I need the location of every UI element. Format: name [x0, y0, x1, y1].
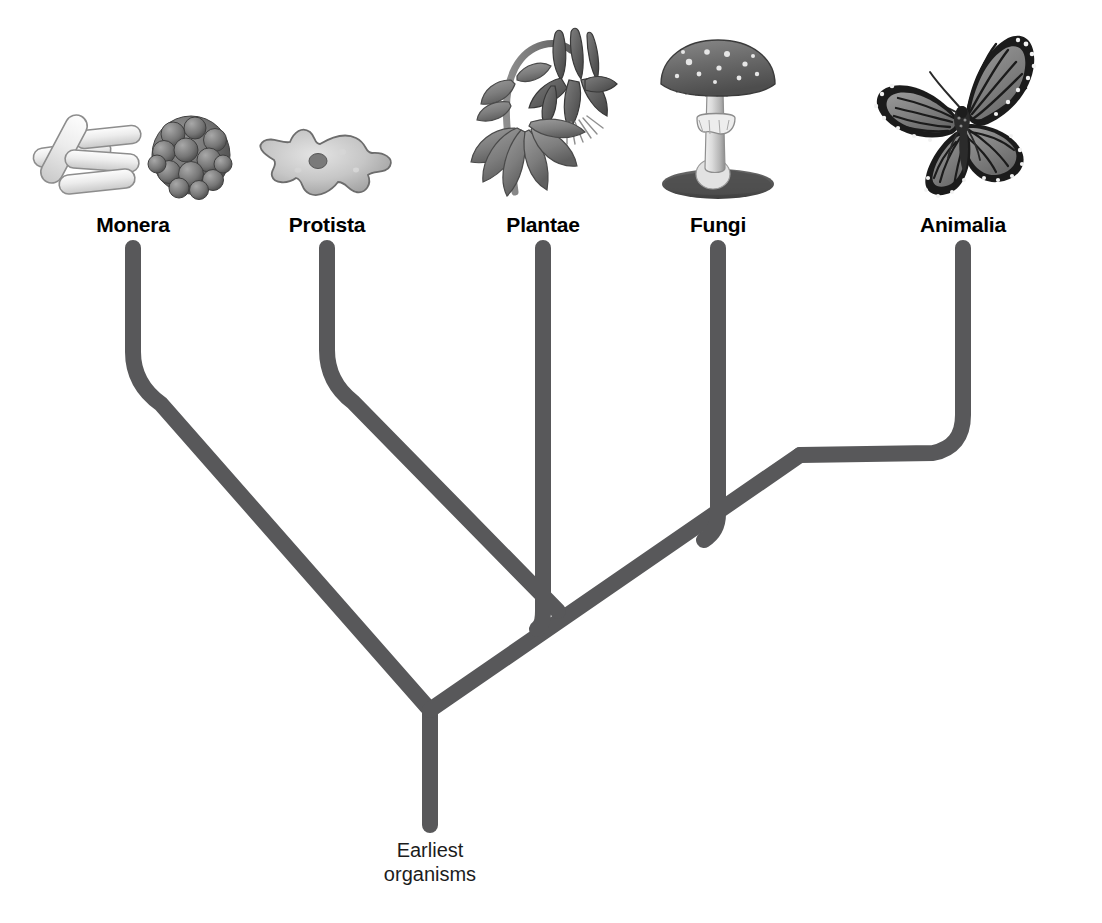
kingdom-label-animalia: Animalia	[920, 214, 1006, 235]
root-label: Earliest organisms	[384, 838, 476, 887]
branch-plantae	[537, 248, 543, 629]
branch-main-diagonal	[430, 455, 800, 710]
branch-protista	[327, 248, 558, 611]
kingdom-label-fungi: Fungi	[690, 214, 746, 235]
kingdom-label-text: Protista	[289, 213, 366, 236]
amoeba-icon	[252, 120, 402, 206]
kingdom-label-plantae: Plantae	[506, 214, 579, 235]
mushroom-icon	[653, 34, 783, 206]
kingdom-label-text: Monera	[96, 213, 169, 236]
kingdom-label-text: Animalia	[920, 213, 1006, 236]
bacteria-icon	[23, 100, 243, 205]
diagram-canvas: Monera Protista Plantae Fungi Animalia E…	[0, 0, 1102, 923]
butterfly-icon	[868, 28, 1058, 206]
branch-animalia	[800, 248, 963, 455]
flower-icon	[463, 24, 623, 206]
kingdom-label-text: Plantae	[506, 213, 579, 236]
root-label-line2: organisms	[384, 862, 476, 886]
kingdom-label-protista: Protista	[289, 214, 366, 235]
kingdom-label-monera: Monera	[96, 214, 169, 235]
branch-monera	[133, 248, 430, 710]
branch-fungi	[704, 248, 718, 540]
kingdom-label-text: Fungi	[690, 213, 746, 236]
root-label-line1: Earliest	[384, 838, 476, 862]
